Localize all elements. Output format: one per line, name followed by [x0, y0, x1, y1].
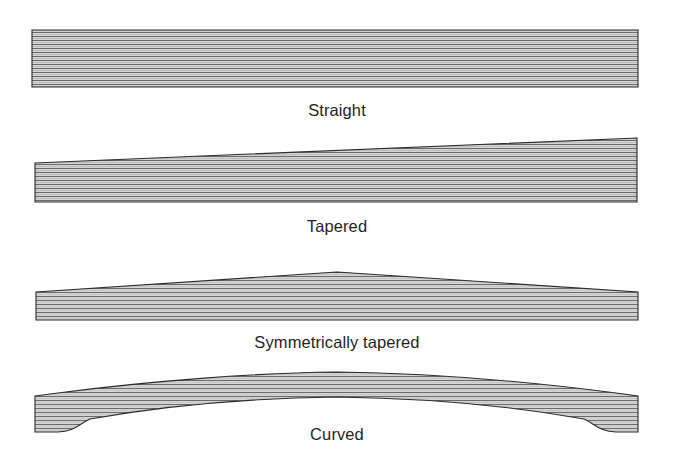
straight-label: Straight: [308, 101, 366, 119]
tapered-label: Tapered: [307, 217, 367, 235]
symmetrically-tapered-label: Symmetrically tapered: [254, 333, 419, 351]
curved-label: Curved: [310, 425, 364, 443]
shape-group-curved: Curved: [35, 372, 638, 443]
shape-group-straight: Straight: [32, 30, 638, 119]
shape-group-tapered: Tapered: [35, 138, 637, 235]
symmetrically-tapered-beam-outline: [36, 272, 638, 320]
curved-beam-outline: [35, 372, 638, 432]
beam-shapes-diagram: Straight Tapered Symmetrically tapered C…: [0, 0, 681, 465]
tapered-beam-outline: [35, 138, 637, 202]
beam-shapes-figure: Straight Tapered Symmetrically tapered C…: [0, 0, 681, 465]
shape-group-symmetrically-tapered: Symmetrically tapered: [36, 272, 638, 351]
straight-beam-outline: [32, 30, 638, 87]
